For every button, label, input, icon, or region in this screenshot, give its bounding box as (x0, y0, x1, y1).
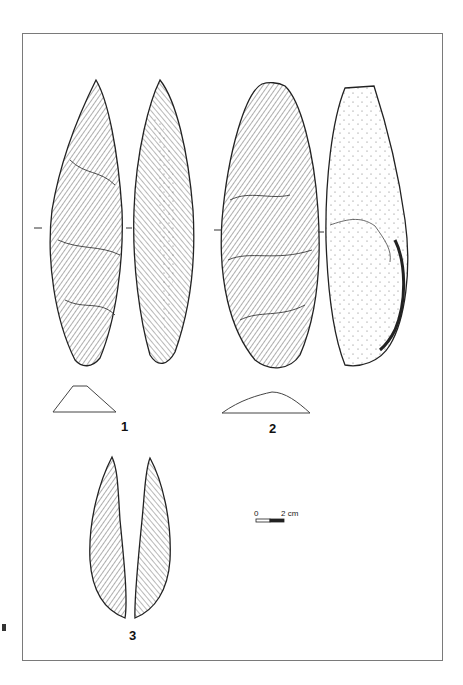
figure-label-3: 3 (129, 628, 136, 643)
scale-end-label: 2 cm (281, 509, 298, 518)
artifact-3-face-b (135, 458, 170, 618)
artifact-2-face-b (318, 86, 408, 366)
margin-mark (2, 624, 6, 631)
artifact-1-section (53, 386, 116, 412)
figure-label-1: 1 (121, 419, 128, 434)
figure-label-2: 2 (269, 421, 276, 436)
scale-start-label: 0 (254, 509, 258, 518)
artifact-2-face-a (214, 83, 319, 368)
artifact-3-face-a (90, 457, 126, 618)
artifact-2-section (222, 392, 310, 413)
artifact-1-face-b (126, 80, 194, 363)
artifact-drawings (0, 0, 463, 685)
scale-bar (256, 519, 284, 522)
artifact-1-face-a (34, 80, 122, 366)
